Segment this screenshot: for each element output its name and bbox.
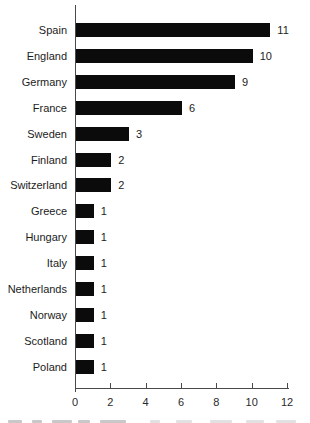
value-label-sweden: 3 xyxy=(136,126,142,142)
value-label-france: 6 xyxy=(189,100,195,116)
category-label-germany: Germany xyxy=(0,74,67,90)
x-tick-label-8: 8 xyxy=(204,396,228,409)
category-label-finland: Finland xyxy=(0,152,67,168)
value-label-hungary: 1 xyxy=(101,229,107,245)
bar-chart-figure: Spain11England10Germany9France6Sweden3Fi… xyxy=(0,0,310,423)
bar-spain xyxy=(76,23,270,37)
bar-germany xyxy=(76,75,235,89)
category-label-france: France xyxy=(0,100,67,116)
bar-switzerland xyxy=(76,178,111,192)
category-label-poland: Poland xyxy=(0,359,67,375)
category-label-hungary: Hungary xyxy=(0,229,67,245)
x-tick-0 xyxy=(75,383,76,388)
category-label-italy: Italy xyxy=(0,255,67,271)
value-label-netherlands: 1 xyxy=(101,281,107,297)
value-label-england: 10 xyxy=(260,48,272,64)
cropped-caption-strip xyxy=(0,415,310,423)
bar-finland xyxy=(76,153,111,167)
x-tick-label-0: 0 xyxy=(63,396,87,409)
bar-scotland xyxy=(76,334,94,348)
x-tick-label-2: 2 xyxy=(98,396,122,409)
bar-england xyxy=(76,49,253,63)
x-tick-2 xyxy=(110,383,111,388)
bar-netherlands xyxy=(76,282,94,296)
value-label-scotland: 1 xyxy=(101,333,107,349)
value-label-spain: 11 xyxy=(277,22,288,38)
category-label-spain: Spain xyxy=(0,22,67,38)
bar-greece xyxy=(76,204,94,218)
category-label-norway: Norway xyxy=(0,307,67,323)
category-label-netherlands: Netherlands xyxy=(0,281,67,297)
value-label-switzerland: 2 xyxy=(118,177,124,193)
x-tick-8 xyxy=(216,383,217,388)
category-label-greece: Greece xyxy=(0,203,67,219)
x-tick-10 xyxy=(252,383,253,388)
x-tick-label-6: 6 xyxy=(169,396,193,409)
x-tick-label-10: 10 xyxy=(240,396,264,409)
x-tick-6 xyxy=(181,383,182,388)
category-label-scotland: Scotland xyxy=(0,333,67,349)
category-label-england: England xyxy=(0,48,67,64)
category-label-sweden: Sweden xyxy=(0,126,67,142)
value-label-finland: 2 xyxy=(118,152,124,168)
bar-italy xyxy=(76,256,94,270)
bar-sweden xyxy=(76,127,129,141)
value-label-norway: 1 xyxy=(101,307,107,323)
value-label-greece: 1 xyxy=(101,203,107,219)
bar-norway xyxy=(76,308,94,322)
x-axis-line xyxy=(75,388,289,389)
x-tick-label-4: 4 xyxy=(134,396,158,409)
x-tick-12 xyxy=(287,383,288,388)
value-label-poland: 1 xyxy=(101,359,107,375)
category-label-switzerland: Switzerland xyxy=(0,177,67,193)
value-label-germany: 9 xyxy=(242,74,248,90)
x-tick-label-12: 12 xyxy=(275,396,299,409)
bar-poland xyxy=(76,360,94,374)
bar-hungary xyxy=(76,230,94,244)
x-tick-4 xyxy=(146,383,147,388)
bar-france xyxy=(76,101,182,115)
value-label-italy: 1 xyxy=(101,255,107,271)
